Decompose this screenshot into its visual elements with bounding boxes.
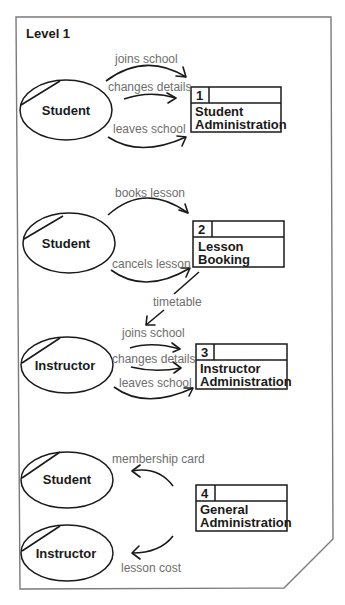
process-number: 3 <box>201 345 208 360</box>
flow-label: joins school <box>121 326 185 340</box>
process-label-line2: Administration <box>200 374 292 389</box>
process-2: 2 Lesson Booking <box>193 221 284 267</box>
process-3: 3 Instructor Administration <box>196 344 292 389</box>
process-1: 1 Student Administration <box>191 87 287 132</box>
entity-label: Instructor <box>36 546 97 561</box>
flow-label: leaves school <box>113 122 186 136</box>
flow-label: joins school <box>114 52 178 66</box>
flow-label: books lesson <box>115 186 185 200</box>
dfd-level-1-diagram: Level 1 Student 1 Student Administration… <box>0 0 345 605</box>
process-number: 4 <box>201 486 209 501</box>
entity-label: Instructor <box>35 358 96 373</box>
process-number: 1 <box>196 88 203 103</box>
entity-label: Student <box>42 236 91 251</box>
diagram-title: Level 1 <box>26 26 70 41</box>
entity-label: Student <box>42 103 91 118</box>
flow-label: changes details <box>108 80 191 94</box>
flow-label: lesson cost <box>121 561 182 575</box>
process-label-line2: Administration <box>195 117 287 132</box>
flow-label: cancels lesson <box>112 257 191 271</box>
entity-label: Student <box>43 472 92 487</box>
process-label-line2: Administration <box>200 515 292 530</box>
flow-label: leaves school <box>119 376 192 390</box>
process-4: 4 General Administration <box>196 485 292 531</box>
process-number: 2 <box>198 222 205 237</box>
flow-label: membership card <box>112 452 205 466</box>
flow-label: timetable <box>153 295 202 309</box>
flow-label: changes details <box>112 352 195 366</box>
process-label-line2: Booking <box>198 252 250 267</box>
